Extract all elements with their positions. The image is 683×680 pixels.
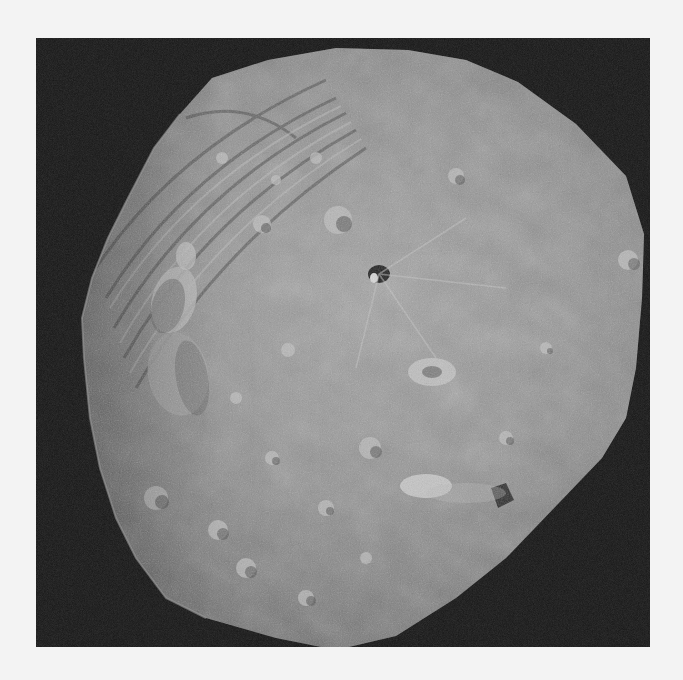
asteroid-photo: Grayscale image of a large irregular ast… — [36, 38, 650, 647]
asteroid-illustration — [36, 38, 650, 647]
